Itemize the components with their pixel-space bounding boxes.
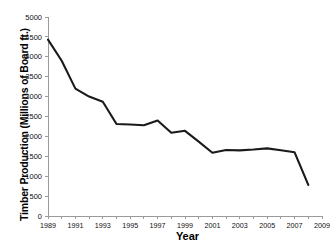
timber-production-line-chart: Timber Production (Millions of Board ft.… <box>0 0 331 249</box>
y-tick-label: 4000 <box>25 52 42 61</box>
x-tick-label: 1999 <box>177 221 193 230</box>
x-tick-label-group: 1989199119931995199719992001200320052007… <box>40 221 330 230</box>
y-tick-label-group: 0500100015002000250030003500400045005000 <box>25 13 42 221</box>
y-tick-label: 1500 <box>25 152 42 161</box>
y-tick-label: 1000 <box>25 172 42 181</box>
y-tick-label: 500 <box>29 192 42 201</box>
x-tick-label: 2007 <box>287 221 303 230</box>
y-tick-label: 4500 <box>25 33 42 42</box>
x-tick-label: 2003 <box>232 221 248 230</box>
plot-area: 0500100015002000250030003500400045005000… <box>0 0 331 249</box>
x-tick-label: 2005 <box>259 221 275 230</box>
y-tick-label: 0 <box>38 212 42 221</box>
y-tick-label: 3000 <box>25 92 42 101</box>
x-tick-label: 1995 <box>122 221 138 230</box>
x-tick-label: 2009 <box>314 221 330 230</box>
y-tick-label: 5000 <box>25 13 42 22</box>
y-tick-label: 3500 <box>25 72 42 81</box>
x-tick-label: 1997 <box>150 221 166 230</box>
y-tick-label: 2000 <box>25 132 42 141</box>
x-tick-label: 2001 <box>204 221 220 230</box>
x-tick-label: 1989 <box>40 221 56 230</box>
y-tick-label: 2500 <box>25 112 42 121</box>
data-series-line <box>48 40 308 185</box>
x-tick-label: 1993 <box>95 221 111 230</box>
x-tick-label: 1991 <box>67 221 83 230</box>
x-axis-title: Year <box>55 230 320 242</box>
